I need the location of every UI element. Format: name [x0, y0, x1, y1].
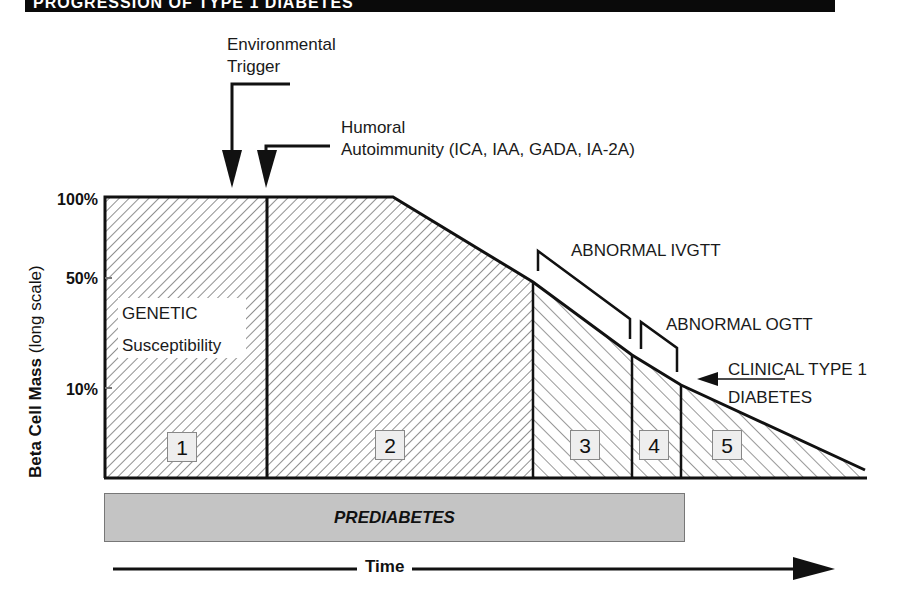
humoral-autoimmunity-label: Humoral Autoimmunity (ICA, IAA, GADA, IA… — [341, 117, 635, 161]
stage-2-badge: 2 — [375, 430, 405, 460]
genetic-susceptibility-label: GENETIC Susceptibility — [122, 298, 221, 362]
time-arrow — [113, 557, 835, 580]
stage-3-badge: 3 — [570, 430, 600, 460]
environmental-trigger-label: Environmental Trigger — [227, 34, 336, 78]
humoral-autoimmunity-arrow — [257, 146, 330, 188]
prediabetes-bar: PREDIABETES — [104, 493, 685, 542]
environmental-trigger-arrow — [222, 84, 290, 188]
stage-1-badge: 1 — [167, 432, 197, 462]
tick-100: 100% — [38, 191, 98, 209]
stage-5-badge: 5 — [712, 430, 742, 460]
time-axis-label: Time — [357, 557, 412, 577]
tick-50: 50% — [38, 270, 98, 288]
abnormal-ogtt-label: ABNORMAL OGTT — [666, 314, 813, 336]
tick-10: 10% — [38, 381, 98, 399]
abnormal-ivgtt-label: ABNORMAL IVGTT — [571, 240, 721, 262]
y-axis-label: Beta Cell Mass (long scale) — [26, 265, 46, 478]
stage-4-badge: 4 — [639, 430, 669, 460]
clinical-diabetes-label: CLINICAL TYPE 1 DIABETES — [728, 356, 867, 412]
